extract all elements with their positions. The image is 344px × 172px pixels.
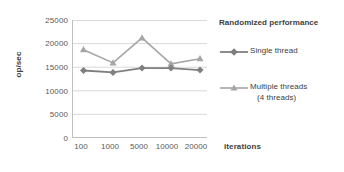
x-tick-20000: 20000 [180,142,212,152]
y-axis-title: op/sec [14,40,23,90]
legend-marker-triangle-icon [219,80,249,92]
y-tick-10000: 10000 [26,88,68,96]
x-axis-title: iterations [224,142,261,151]
y-tick-15000: 15000 [26,64,68,72]
legend-label-multiple-threads: Multiple threads [250,81,307,92]
plot-area [72,20,207,138]
legend-title: Randomized performance [219,18,318,27]
x-tick-1000: 1000 [95,142,125,152]
legend-label-multiple-threads-sub: (4 threads) [257,92,296,103]
y-tick-25000: 25000 [26,17,68,25]
plot-svg [72,20,207,138]
legend-label-single-thread: Single thread [250,45,298,56]
x-tick-5000: 5000 [124,142,154,152]
legend-marker-diamond-icon [219,44,249,56]
x-tick-10000: 10000 [151,142,183,152]
x-axis-ticks: 100 1000 5000 10000 20000 [60,142,220,156]
x-tick-100: 100 [66,142,96,152]
series-single-thread [80,65,204,76]
series-multiple-threads [80,34,204,66]
chart-legend: Randomized performance Single thread Mul… [219,18,343,128]
y-tick-5000: 5000 [26,111,68,119]
y-tick-20000: 20000 [26,40,68,48]
line-chart: 25000 20000 15000 10000 5000 0 op/sec [0,0,215,172]
chart-screenshot: 25000 20000 15000 10000 5000 0 op/sec [0,0,344,172]
